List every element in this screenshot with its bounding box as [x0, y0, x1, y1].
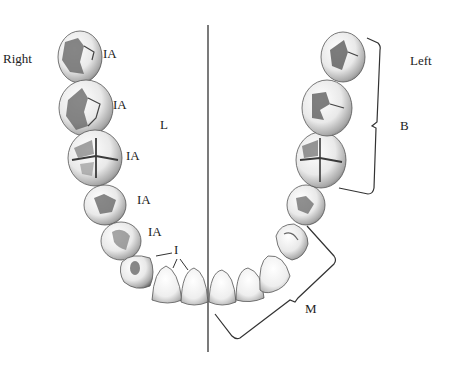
left-second-molar: [302, 80, 352, 136]
left-third-molar: [321, 32, 365, 82]
left-canine: [260, 256, 290, 293]
incisor-leader-lines: [156, 253, 188, 270]
label-ia-1: IA: [103, 47, 117, 60]
right-third-molar: [58, 31, 102, 83]
right-first-premolar: [101, 222, 141, 260]
label-ia-2: IA: [113, 98, 127, 111]
label-ia-5: IA: [148, 225, 162, 238]
label-lingual: L: [160, 118, 168, 131]
label-incisors: I: [174, 243, 178, 256]
anterior-teeth: [152, 256, 290, 305]
right-second-molar: [59, 80, 113, 136]
label-ia-4: IA: [137, 193, 151, 206]
right-canine: [120, 256, 153, 289]
label-ia-3: IA: [126, 149, 140, 162]
left-first-molar: [296, 132, 346, 188]
label-buccal: B: [400, 119, 409, 132]
left-second-premolar: [287, 185, 325, 225]
right-second-premolar: [84, 185, 126, 225]
arch-illustration: [0, 0, 451, 368]
right-lateral-incisor: [152, 266, 182, 303]
left-first-premolar: [276, 224, 308, 260]
right-first-molar: [68, 130, 122, 186]
left-central-incisor: [209, 270, 236, 305]
label-right: Right: [3, 52, 32, 65]
right-central-incisor: [181, 268, 208, 305]
dental-arch-diagram: Right Left L B M I IA IA IA IA IA: [0, 0, 451, 368]
label-mesial: M: [305, 302, 317, 315]
left-posterior-teeth: [276, 32, 365, 260]
label-left: Left: [410, 54, 432, 67]
